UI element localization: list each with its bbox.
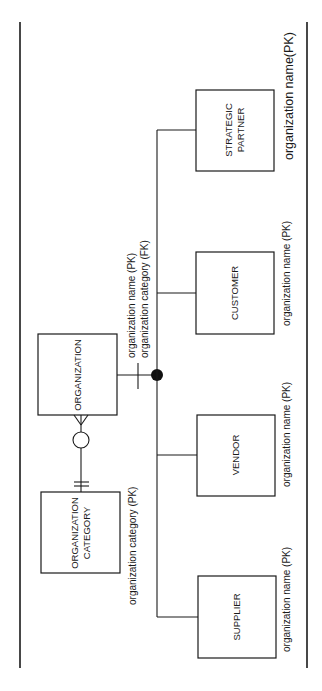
entity-label-line1: STRATEGIC (223, 103, 234, 157)
entity-organization: ORGANIZATION (38, 334, 117, 415)
entity-label: ORGANIZATION (72, 339, 83, 411)
organization-key-category: organization category (FK) (139, 240, 150, 358)
vendor-key: organization name (PK) (281, 382, 292, 487)
entity-customer: CUSTOMER (196, 252, 274, 334)
entity-label: VENDOR (230, 435, 241, 476)
customer-key: organization name (PK) (281, 221, 292, 326)
strategic-partner-key: organization name(PK) (282, 32, 296, 160)
entity-label-line1: ORGANIZATION (69, 497, 80, 569)
entity-supplier: SUPPLIER (198, 576, 276, 658)
zero-optional-marker-icon (73, 432, 89, 448)
entity-vendor: VENDOR (197, 415, 275, 496)
er-diagram: ORGANIZATION CATEGORY organization categ… (0, 0, 322, 691)
relationship-category-organization (73, 415, 89, 492)
entity-label-line2: PARTNER (235, 108, 246, 153)
organization-key-name: organization name (PK) (126, 253, 137, 358)
entity-label: SUPPLIER (231, 593, 242, 640)
organization-category-key: organization category (PK) (127, 487, 138, 605)
entity-organization-category: ORGANIZATION CATEGORY (41, 492, 120, 573)
entity-strategic-partner: STRATEGIC PARTNER (196, 90, 274, 171)
entity-label: CUSTOMER (229, 266, 240, 320)
supplier-key: organization name (PK) (281, 547, 292, 652)
crows-foot-many-icon (74, 415, 88, 425)
entity-label-line2: CATEGORY (81, 506, 92, 559)
